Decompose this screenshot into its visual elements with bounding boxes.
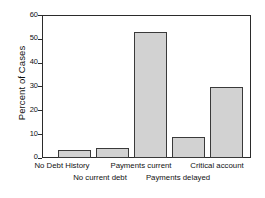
bars-layer xyxy=(42,15,251,158)
y-tick-label-30: 30 xyxy=(24,82,38,90)
x-label-no-debt-history: No Debt History xyxy=(17,161,107,171)
bar-payments-delayed xyxy=(172,137,205,158)
bar-no-current-debt xyxy=(96,148,129,158)
bar-chart: Percent of Cases 60 50 40 30 20 10 0 No … xyxy=(0,0,265,198)
y-tick-label-10: 10 xyxy=(24,130,38,138)
x-axis-labels: No Debt History No current debt Payments… xyxy=(0,158,265,198)
y-tick-label-40: 40 xyxy=(24,58,38,66)
x-label-critical-account: Critical account xyxy=(171,161,263,171)
y-tick-label-20: 20 xyxy=(24,106,38,114)
bar-critical-account xyxy=(210,87,243,158)
y-tick-label-60: 60 xyxy=(24,11,38,19)
bar-no-debt-history xyxy=(58,150,91,158)
x-label-payments-delayed: Payments delayed xyxy=(132,173,224,183)
y-tick-label-50: 50 xyxy=(24,34,38,42)
bar-payments-current xyxy=(134,32,167,158)
